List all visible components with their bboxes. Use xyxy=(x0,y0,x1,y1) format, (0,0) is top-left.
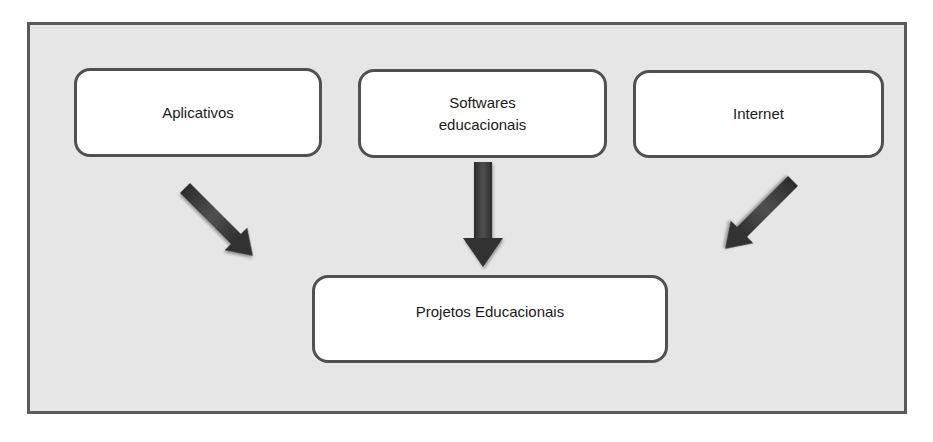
arrow-down-right-icon xyxy=(174,177,265,268)
arrows-layer xyxy=(0,0,933,442)
arrow-down-icon xyxy=(463,162,503,267)
arrow-down-left-icon xyxy=(714,170,805,261)
